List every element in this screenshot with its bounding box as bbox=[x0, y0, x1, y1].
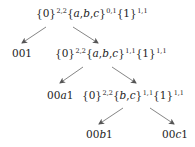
edge-root-to-001 bbox=[22, 27, 46, 43]
multiplicity: 1,1 bbox=[156, 47, 166, 55]
multiplicity: 1,1 bbox=[174, 89, 184, 97]
leaf-suffix: 1 bbox=[67, 89, 74, 101]
set-one: {1} bbox=[136, 47, 156, 59]
multiplicity: 2,2 bbox=[76, 47, 86, 55]
multiplicity: 0,1 bbox=[106, 7, 116, 15]
var-b: b bbox=[83, 7, 90, 19]
multiplicity: 1,1 bbox=[125, 47, 135, 55]
brace-close: } bbox=[118, 47, 125, 59]
brace-open: { bbox=[113, 89, 120, 101]
leaf-00b1: 00b1 bbox=[86, 128, 113, 140]
leaf-00a1: 00a1 bbox=[47, 89, 73, 101]
multiplicity: 2,2 bbox=[103, 89, 113, 97]
leaf-label: 001 bbox=[12, 47, 32, 59]
multiplicity: 1,1 bbox=[137, 7, 147, 15]
leaf-001: 001 bbox=[12, 47, 32, 59]
brace-close: } bbox=[99, 7, 106, 19]
edge-root-to-mid1 bbox=[73, 27, 98, 43]
edge-mid1-to-mid2 bbox=[112, 67, 136, 83]
multiplicity: 1,1 bbox=[143, 89, 153, 97]
var-b: b bbox=[102, 47, 109, 59]
leaf-prefix: 00 bbox=[86, 128, 99, 140]
mid1-node: {0}2,2{a,b,c}1,1{1}1,1 bbox=[55, 47, 167, 61]
brace-open: { bbox=[86, 47, 93, 59]
brace-close: } bbox=[136, 89, 143, 101]
leaf-00c1: 00c1 bbox=[162, 128, 188, 140]
leaf-suffix: 1 bbox=[181, 128, 188, 140]
leaf-prefix: 00 bbox=[162, 128, 175, 140]
edge-mid2-to-00c1 bbox=[150, 108, 174, 124]
set-zero: {0} bbox=[82, 89, 102, 101]
set-one: {1} bbox=[153, 89, 173, 101]
edge-mid2-to-00b1 bbox=[99, 108, 123, 124]
set-zero: {0} bbox=[55, 47, 75, 59]
mid2-node: {0}2,2{b,c}1,1{1}1,1 bbox=[82, 89, 184, 103]
leaf-prefix: 00 bbox=[47, 89, 60, 101]
root-node: {0}2,2{a,b,c}0,1{1}1,1 bbox=[36, 7, 148, 21]
edge-mid1-to-00a1 bbox=[60, 67, 83, 83]
tree-edges bbox=[0, 0, 195, 147]
set-zero: {0} bbox=[36, 7, 56, 19]
multiplicity: 2,2 bbox=[57, 7, 67, 15]
brace-open: { bbox=[67, 7, 74, 19]
set-one: {1} bbox=[117, 7, 137, 19]
leaf-suffix: 1 bbox=[106, 128, 113, 140]
